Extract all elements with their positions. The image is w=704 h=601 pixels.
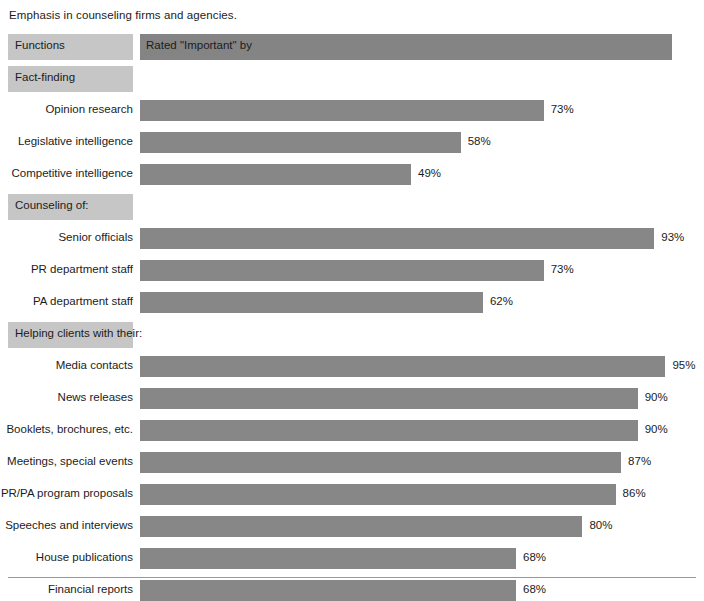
bar-value-label: 68% [523, 583, 546, 595]
bar-row-pr-department-staff: PR department staff73% [0, 258, 704, 290]
bar-value-label: 68% [523, 551, 546, 563]
section-label-box: Fact-finding [8, 66, 133, 92]
bar-value-label: 95% [672, 359, 695, 371]
bar-category-label: PR department staff [0, 263, 133, 275]
bar-value-label: 62% [490, 295, 513, 307]
section-header-helping-clients-with-their: Helping clients with their: [0, 322, 704, 354]
bar-value-label: 93% [661, 231, 684, 243]
bar-row-meetings-special-events: Meetings, special events87% [0, 450, 704, 482]
bar-row-booklets-brochures-etc: Booklets, brochures, etc.90% [0, 418, 704, 450]
bar-value-label: 90% [645, 391, 668, 403]
bar-row-media-contacts: Media contacts95% [0, 354, 704, 386]
bar-row-house-publications: House publications68% [0, 546, 704, 578]
bar-category-label: Meetings, special events [0, 455, 133, 467]
bar-value-label: 73% [551, 263, 574, 275]
bar-row-pr-pa-program-proposals: PR/PA program proposals86% [0, 482, 704, 514]
bar [140, 388, 638, 409]
bar-category-label: Speeches and interviews [0, 519, 133, 531]
column-header-rated-important-label: Rated "Important" by [146, 39, 252, 51]
bar-category-label: Financial reports [0, 583, 133, 595]
bar-category-label: House publications [0, 551, 133, 563]
bar-value-label: 58% [468, 135, 491, 147]
bar [140, 356, 665, 377]
bar-row-opinion-research: Opinion research73% [0, 98, 704, 130]
bar [140, 484, 616, 505]
figure-caption: Emphasis in counseling firms and agencie… [9, 9, 237, 21]
bar-row-financial-reports: Financial reports68% [0, 578, 704, 601]
section-header-counseling-of: Counseling of: [0, 194, 704, 226]
section-label-box: Helping clients with their: [8, 322, 133, 348]
figure-root: Emphasis in counseling firms and agencie… [0, 0, 704, 601]
bar-row-speeches-and-interviews: Speeches and interviews80% [0, 514, 704, 546]
bar-row-competitive-intelligence: Competitive intelligence49% [0, 162, 704, 194]
bar [140, 164, 411, 185]
bar [140, 452, 621, 473]
section-label: Fact-finding [15, 71, 75, 83]
bar-category-label: PA department staff [0, 295, 133, 307]
bar [140, 516, 582, 537]
bar-value-label: 87% [628, 455, 651, 467]
column-header-functions: Functions [8, 34, 133, 60]
bar-category-label: PR/PA program proposals [0, 487, 133, 499]
bar-category-label: Competitive intelligence [0, 167, 133, 179]
bar [140, 420, 638, 441]
footer-divider-rule [8, 577, 696, 578]
section-header-fact-finding: Fact-finding [0, 66, 704, 98]
bar [140, 228, 654, 249]
bar [140, 548, 516, 569]
bar-category-label: Senior officials [0, 231, 133, 243]
bar-category-label: News releases [0, 391, 133, 403]
bar-chart: FunctionsRated "Important" byFact-findin… [0, 34, 704, 601]
bar-value-label: 80% [589, 519, 612, 531]
bar [140, 132, 461, 153]
bar-row-pa-department-staff: PA department staff62% [0, 290, 704, 322]
section-label: Helping clients with their: [15, 327, 142, 339]
section-label: Counseling of: [15, 199, 89, 211]
bar-category-label: Opinion research [0, 103, 133, 115]
bar-value-label: 86% [623, 487, 646, 499]
bar [140, 260, 544, 281]
bar-row-legislative-intelligence: Legislative intelligence58% [0, 130, 704, 162]
bar-value-label: 90% [645, 423, 668, 435]
section-label-box: Counseling of: [8, 194, 133, 220]
bar-category-label: Booklets, brochures, etc. [0, 423, 133, 435]
bar [140, 100, 544, 121]
column-header-functions-label: Functions [15, 39, 65, 51]
bar-value-label: 73% [551, 103, 574, 115]
chart-header-row: FunctionsRated "Important" by [0, 34, 704, 66]
bar [140, 292, 483, 313]
bar-category-label: Media contacts [0, 359, 133, 371]
bar [140, 580, 516, 601]
bar-category-label: Legislative intelligence [0, 135, 133, 147]
column-header-rated-important: Rated "Important" by [140, 34, 672, 60]
bar-row-news-releases: News releases90% [0, 386, 704, 418]
bar-row-senior-officials: Senior officials93% [0, 226, 704, 258]
bar-value-label: 49% [418, 167, 441, 179]
